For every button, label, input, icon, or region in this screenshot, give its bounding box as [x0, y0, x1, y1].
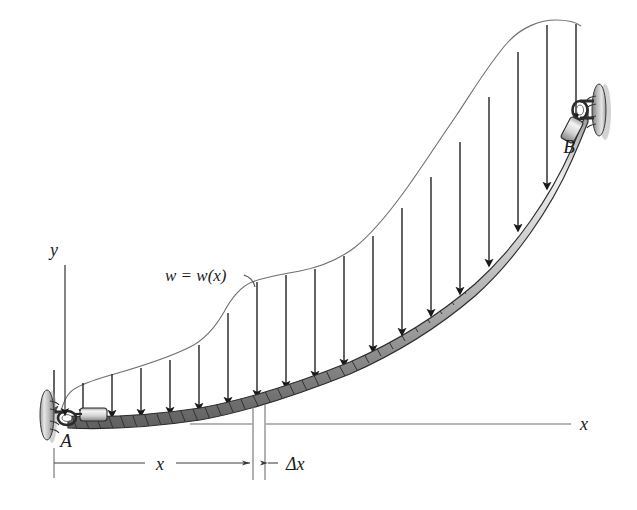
support-b-wall-plate — [592, 84, 606, 136]
cable-load-diagram: y x x Δx w = w(x) — [0, 0, 637, 510]
cable-sleeve-a — [80, 408, 107, 421]
load-function-label: w = w(x) — [165, 266, 227, 285]
dimension-extension-lines — [253, 404, 265, 480]
support-b — [560, 84, 611, 144]
dimension-delta-x: Δx — [268, 454, 305, 474]
x-axis: x — [190, 414, 588, 434]
diagram-canvas: y x x Δx w = w(x) — [0, 0, 637, 510]
load-arrow-group — [54, 24, 576, 414]
dimension-x-label: x — [155, 454, 164, 474]
support-b-label: B — [563, 136, 575, 157]
load-function-callout: w = w(x) — [165, 266, 255, 287]
cable — [68, 95, 588, 432]
dimension-x: x — [54, 448, 250, 478]
support-a-label: A — [58, 430, 72, 451]
load-intensity-curve — [60, 20, 581, 414]
y-axis-label: y — [48, 240, 58, 260]
x-axis-label: x — [579, 414, 588, 434]
dimension-delta-x-label: Δx — [285, 454, 305, 474]
support-a-wall-plate — [40, 390, 54, 440]
y-axis: y — [48, 240, 65, 412]
